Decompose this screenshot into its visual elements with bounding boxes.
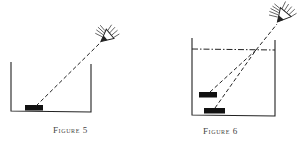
water-surface [192, 49, 275, 50]
diagram-canvas [0, 0, 302, 148]
coin-5 [25, 105, 43, 111]
real-coin [204, 108, 225, 114]
apparent-line-of-sight [210, 50, 256, 92]
real-ray [215, 50, 256, 108]
figure-6-caption: Figure 6 [203, 126, 238, 136]
eye-icon-6 [267, 0, 298, 28]
container-5 [11, 62, 91, 112]
figure-5-caption: Figure 5 [53, 125, 88, 135]
refracted-ray-to-eye [256, 24, 277, 50]
figure-5 [11, 19, 120, 112]
figure-6 [192, 0, 298, 116]
apparent-coin [199, 92, 217, 98]
eye-icon-5 [93, 19, 121, 46]
